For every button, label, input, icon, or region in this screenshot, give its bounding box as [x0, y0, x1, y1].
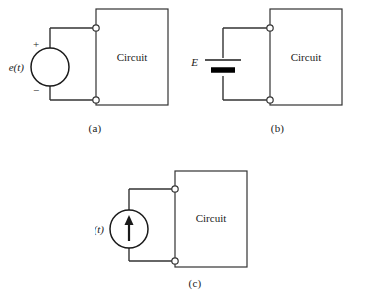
polarity-minus-label-a: −	[33, 84, 39, 96]
circuit-block-label-a: Circuit	[117, 51, 148, 63]
terminal-top-a	[93, 25, 99, 31]
panel-b-diagram: E Circuit	[190, 0, 365, 120]
source-label-b: E	[190, 56, 198, 68]
panel-a-diagram: + − e(t) Circuit	[0, 0, 190, 120]
terminal-top-b	[267, 25, 273, 31]
panel-caption-c: (c)	[95, 277, 295, 289]
terminal-bottom-b	[267, 97, 273, 103]
ac-voltage-source-symbol-a	[31, 48, 69, 86]
panel-a-voltage-source: + − e(t) Circuit (a)	[0, 0, 190, 150]
terminal-bottom-a	[93, 97, 99, 103]
panel-b-battery-source: E Circuit (b)	[190, 0, 365, 150]
panel-c-current-source: i(t) Circuit (c)	[95, 165, 295, 305]
polarity-plus-label-a: +	[33, 38, 39, 50]
panel-caption-a: (a)	[0, 122, 190, 134]
circuit-figure: + − e(t) Circuit (a)	[0, 0, 365, 305]
panel-caption-b: (b)	[190, 122, 365, 134]
terminal-top-c	[172, 186, 178, 192]
source-label-c: i(t)	[95, 223, 104, 236]
panel-c-diagram: i(t) Circuit	[95, 165, 295, 280]
source-label-a: e(t)	[9, 61, 25, 74]
circuit-block-label-c: Circuit	[196, 212, 227, 224]
terminal-bottom-c	[172, 258, 178, 264]
circuit-block-label-b: Circuit	[291, 51, 322, 63]
